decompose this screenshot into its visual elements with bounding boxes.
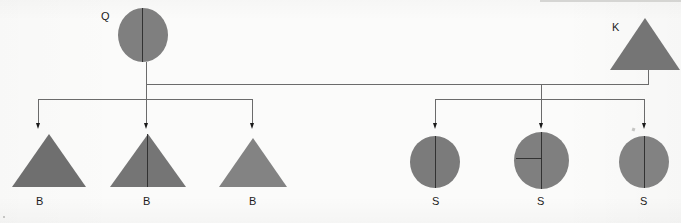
connector-right-group-drop [541, 84, 542, 100]
child-1-triangle-shape [12, 134, 86, 187]
connector-left-group-drop [146, 84, 147, 100]
parent-q-vertical-divider-mark [142, 8, 143, 62]
parent-q-circle-shape [118, 8, 168, 62]
arrowhead-child-5 [539, 123, 543, 129]
arrowhead-child-3 [250, 123, 254, 129]
scan-speck-1 [632, 128, 636, 132]
connector-child-2-drop [146, 99, 147, 125]
parent-q-label: Q [101, 11, 110, 22]
child-6-label: S [640, 196, 648, 207]
scan-speck-2 [3, 216, 5, 218]
connector-child-3-drop [252, 99, 253, 125]
connector-parent-k-stem [648, 70, 649, 85]
child-3-label: B [249, 196, 257, 207]
parent-k-label: K [612, 22, 620, 33]
child-1-label: B [36, 196, 44, 207]
connector-sibship-line [146, 84, 649, 85]
arrowhead-child-2 [144, 123, 148, 129]
connector-child-6-drop [644, 99, 645, 125]
connector-child-5-drop [541, 99, 542, 125]
arrowhead-child-4 [433, 123, 437, 129]
child-4-vertical-divider-mark [435, 136, 436, 188]
connector-child-4-drop [435, 99, 436, 125]
connector-parent-q-stem [146, 62, 147, 85]
child-5-label: S [537, 196, 545, 207]
scan-edge-artifact [540, 0, 681, 2]
child-5-circle-shape [514, 132, 569, 189]
child-2-label: B [143, 196, 151, 207]
child-6-circle-shape [619, 136, 669, 188]
diagram-canvas: Q K B B B [0, 0, 681, 223]
connector-child-1-drop [38, 99, 39, 125]
child-4-label: S [432, 196, 440, 207]
arrowhead-child-1 [36, 123, 40, 129]
child-5-horizontal-radius-mark [516, 158, 542, 159]
parent-k-triangle-shape [610, 18, 680, 70]
child-6-vertical-divider-mark [644, 136, 645, 188]
arrowhead-child-6 [642, 123, 646, 129]
child-2-triangle-shape [110, 134, 186, 187]
child-5-vertical-divider-mark [541, 132, 542, 189]
paper-grain-overlay [0, 0, 681, 223]
child-4-circle-shape [410, 136, 460, 188]
child-2-vertical-divider-mark [147, 134, 148, 187]
connector-right-group-bar [435, 99, 645, 100]
child-3-triangle-shape [219, 138, 287, 187]
